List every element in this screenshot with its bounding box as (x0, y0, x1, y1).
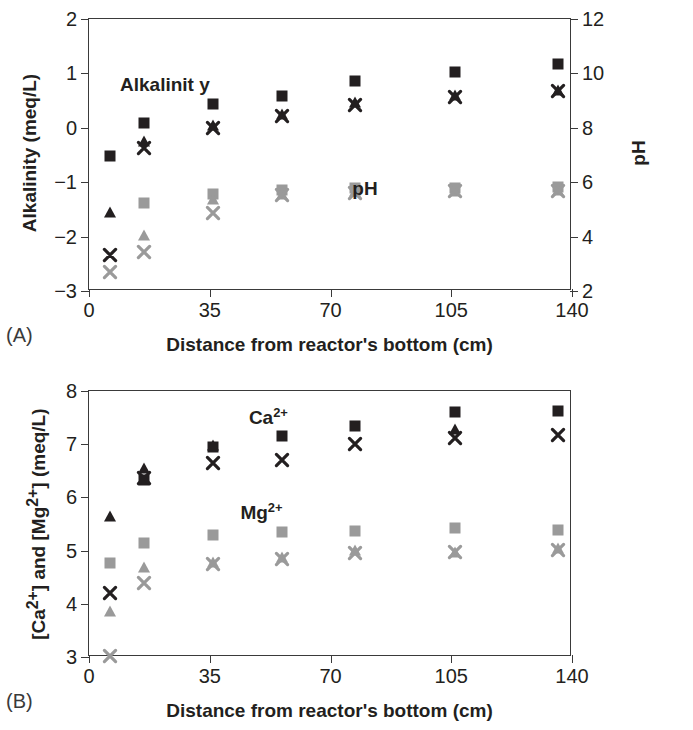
y-axis-tick (81, 551, 89, 552)
series-1-triangle-marker (207, 440, 219, 451)
series-2-x-marker (274, 108, 290, 124)
series-3-square-marker (208, 529, 219, 540)
x-axis-tick-label: 105 (435, 665, 468, 688)
series-1-triangle-marker (104, 511, 116, 522)
panel-b-x-axis-title: Distance from reactor's bottom (cm) (88, 700, 571, 722)
secondary-y-axis-tick (570, 237, 578, 238)
x-axis-tick (331, 289, 332, 297)
series-0-square-marker (208, 98, 219, 109)
secondary-y-axis-tick-label: 2 (582, 280, 593, 303)
panel-a-letter: (A) (6, 324, 33, 347)
x-axis-tick (331, 655, 332, 663)
x-axis-tick (210, 655, 211, 663)
series-1-triangle-marker (104, 207, 116, 218)
series-3-square-marker (349, 526, 360, 537)
y-axis-tick-label: 8 (66, 380, 77, 403)
series-0-square-marker (553, 405, 564, 416)
series-3-square-marker (139, 538, 150, 549)
y-axis-tick (81, 19, 89, 20)
plot-annotation: pH (352, 178, 377, 200)
panel-b: [Ca2+] and [Mg2+] (meq/L) 03570105140345… (0, 372, 693, 730)
secondary-y-axis-tick (570, 19, 578, 20)
series-2-x-marker (205, 455, 221, 471)
y-axis-tick (81, 182, 89, 183)
series-2-x-marker (205, 120, 221, 136)
secondary-y-axis-tick (570, 291, 578, 292)
panel-a-secondary-y-axis-title: pH (628, 133, 650, 173)
series-0-square-marker (277, 431, 288, 442)
series-2-x-marker (274, 452, 290, 468)
x-axis-tick-label: 70 (319, 299, 341, 322)
y-axis-tick (81, 497, 89, 498)
series-0-square-marker (349, 420, 360, 431)
series-5-x-marker (347, 545, 363, 561)
series-4-triangle-marker (138, 230, 150, 241)
secondary-y-axis-tick-label: 6 (582, 171, 593, 194)
series-2-x-marker (347, 436, 363, 452)
x-axis-tick (210, 289, 211, 297)
y-axis-tick-label: −2 (54, 225, 77, 248)
series-2-x-marker (347, 97, 363, 113)
y-axis-tick-label: 4 (66, 592, 77, 615)
two-panel-figure: Alkalinity (meq/L) pH 03570105140−3−2−10… (0, 0, 693, 730)
series-5-x-marker (102, 648, 118, 664)
x-axis-tick-label: 0 (83, 665, 94, 688)
series-0-square-marker (139, 117, 150, 128)
series-0-square-marker (449, 407, 460, 418)
y-axis-tick-label: 3 (66, 646, 77, 669)
panel-b-letter: (B) (6, 690, 33, 713)
series-5-x-marker (550, 542, 566, 558)
y-axis-tick (81, 391, 89, 392)
y-axis-tick-label: 5 (66, 539, 77, 562)
y-axis-tick (81, 444, 89, 445)
secondary-y-axis-tick-label: 12 (582, 8, 604, 31)
secondary-y-axis-tick (570, 182, 578, 183)
series-5-x-marker (274, 187, 290, 203)
y-axis-tick-label: 1 (66, 62, 77, 85)
series-3-square-marker (449, 522, 460, 533)
secondary-y-axis-tick-label: 10 (582, 62, 604, 85)
y-axis-tick (81, 291, 89, 292)
series-2-x-marker (102, 247, 118, 263)
x-axis-tick-label: 35 (199, 299, 221, 322)
series-2-x-marker (102, 585, 118, 601)
x-axis-tick-label: 0 (83, 299, 94, 322)
y-axis-tick-label: 0 (66, 116, 77, 139)
y-axis-tick-label: 2 (66, 8, 77, 31)
series-5-x-marker (205, 205, 221, 221)
secondary-y-axis-tick (570, 128, 578, 129)
y-axis-tick-label: 7 (66, 433, 77, 456)
panel-b-y-axis-title: [Ca2+] and [Mg2+] (meq/L) (24, 379, 50, 669)
series-4-triangle-marker (207, 193, 219, 204)
series-0-square-marker (449, 66, 460, 77)
series-5-x-marker (136, 244, 152, 260)
series-3-square-marker (104, 558, 115, 569)
series-4-triangle-marker (104, 606, 116, 617)
series-2-x-marker (447, 89, 463, 105)
panel-a-y-axis-title: Alkalinity (meq/L) (19, 43, 41, 263)
x-axis-tick (451, 289, 452, 297)
y-axis-tick-label: −3 (54, 280, 77, 303)
series-5-x-marker (447, 183, 463, 199)
series-5-x-marker (274, 551, 290, 567)
x-axis-tick-label: 70 (319, 665, 341, 688)
x-axis-tick-label: 105 (435, 299, 468, 322)
series-4-triangle-marker (138, 561, 150, 572)
series-2-x-marker (447, 430, 463, 446)
secondary-y-axis-tick (570, 73, 578, 74)
series-5-x-marker (102, 264, 118, 280)
plot-annotation: Ca2+ (249, 404, 288, 428)
y-axis-tick (81, 604, 89, 605)
y-axis-tick (81, 657, 89, 658)
y-axis-tick-label: −1 (54, 171, 77, 194)
series-5-x-marker (205, 556, 221, 572)
panel-a-x-axis-title: Distance from reactor's bottom (cm) (88, 334, 571, 356)
panel-a-plot-area: 03570105140−3−2−101224681012Alkalinit yp… (88, 18, 571, 290)
plot-annotation: Alkalinit y (120, 74, 210, 96)
y-axis-tick-label: 6 (66, 486, 77, 509)
series-0-square-marker (553, 58, 564, 69)
series-3-square-marker (277, 526, 288, 537)
series-2-x-marker (136, 140, 152, 156)
series-2-x-marker (550, 83, 566, 99)
series-0-square-marker (349, 76, 360, 87)
